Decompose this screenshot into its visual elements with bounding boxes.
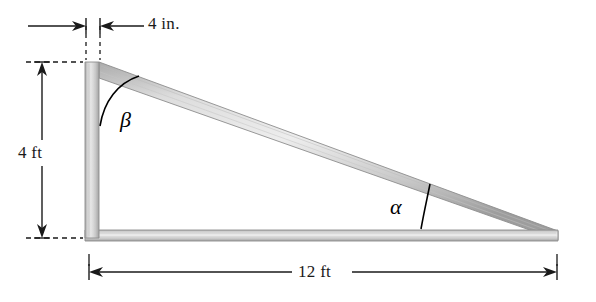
bottom-beam [85,230,558,241]
dimension-label-left: 4 ft [18,143,42,163]
dimension-label-top: 4 in. [148,14,180,34]
top-dimension-4in [28,18,144,60]
diagonal-beam [99,62,558,240]
angle-label-alpha: α [390,194,402,220]
dimension-label-bottom: 12 ft [298,262,331,282]
ladder-frame-diagram [0,0,596,302]
vertical-post [85,62,99,238]
figure-container: 4 in. 4 ft 12 ft β α [0,0,596,302]
angle-label-beta: β [120,107,131,133]
